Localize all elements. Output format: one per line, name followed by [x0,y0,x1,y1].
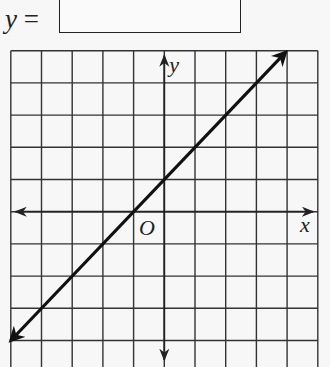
y-axis-label: y [167,52,179,77]
plotted-line [11,52,286,340]
coordinate-graph: y x O [0,0,330,367]
x-axis-label: x [299,212,310,237]
axes [15,56,313,360]
origin-label: O [139,215,155,240]
